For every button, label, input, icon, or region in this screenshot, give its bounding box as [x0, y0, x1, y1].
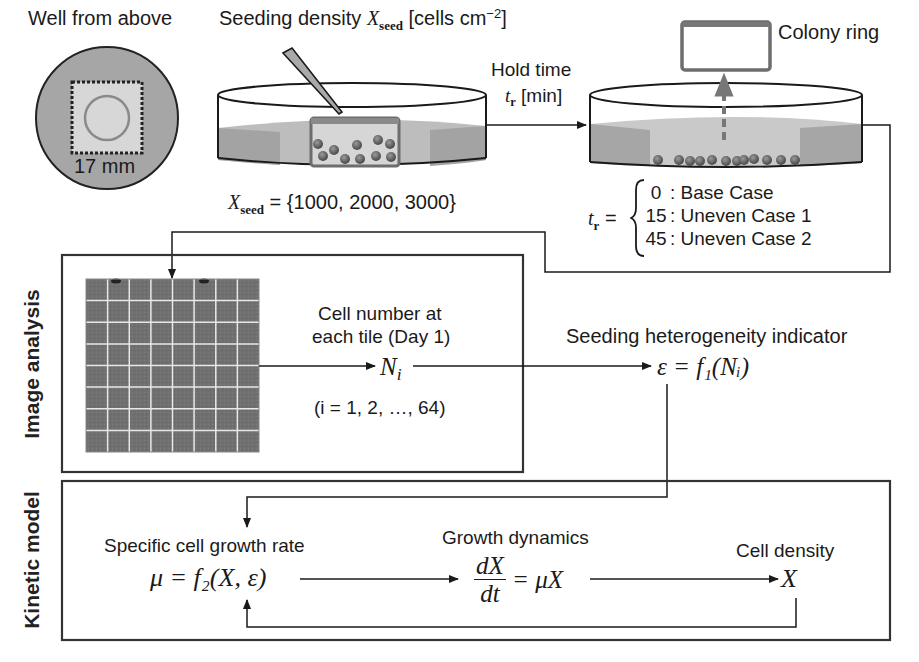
cell-density-symbol: X — [781, 566, 797, 592]
seeding-symbol: Xseed — [367, 7, 403, 29]
case-item: 15: Uneven Case 1 — [642, 204, 812, 227]
colony-ring-label: Colony ring — [778, 22, 879, 42]
seeding-unit: [cells cm — [409, 7, 487, 29]
hold-time-cases-list: 0: Base Case 15: Uneven Case 1 45: Uneve… — [642, 181, 812, 250]
heterogeneity-formula: ε = f₁(Nᵢ) — [657, 354, 749, 379]
case-item: 0: Base Case — [642, 181, 812, 204]
hold-time-label: Hold time — [491, 60, 571, 79]
seeding-unit-exponent: −2 — [486, 6, 501, 21]
tile-grid-image — [86, 279, 259, 453]
growth-dynamics-label: Growth dynamics — [442, 528, 589, 547]
hold-time-symbol: tr [min] — [505, 86, 562, 109]
seeding-density-label: Seeding density Xseed [cells cm−2] — [219, 7, 507, 32]
index-range: (i = 1, 2, …, 64) — [314, 398, 445, 417]
growth-dynamics-formula: dXdt = μX — [474, 553, 563, 606]
epsilon-to-growth-connector — [247, 384, 667, 527]
seeding-dish — [218, 48, 486, 166]
growth-rate-label: Specific cell growth rate — [104, 536, 305, 555]
seeding-unit-close: ] — [501, 7, 507, 29]
ni-symbol: Ni — [380, 354, 402, 384]
seeding-prefix: Seeding density — [219, 7, 367, 29]
hold-dish — [590, 22, 862, 167]
well-from-above-label: Well from above — [28, 8, 172, 28]
seeding-values: Xseed = {1000, 2000, 3000} — [228, 192, 456, 216]
cases-symbol: tr = — [588, 208, 617, 232]
kinetic-model-section-label: Kinetic model — [20, 486, 44, 634]
cell-number-label-line1: Cell number at — [318, 304, 442, 323]
heterogeneity-indicator-label: Seeding heterogeneity indicator — [566, 326, 847, 346]
cell-density-label: Cell density — [736, 541, 834, 560]
well-dimension-label: 17 mm — [74, 156, 135, 176]
derivative-fraction: dXdt — [474, 553, 506, 606]
growth-rate-formula: μ = f₂(X, ε) — [150, 565, 266, 591]
case-item: 45: Uneven Case 2 — [642, 227, 812, 250]
image-analysis-section-label: Image analysis — [20, 284, 44, 444]
cell-number-label-line2: each tile (Day 1) — [312, 327, 450, 346]
